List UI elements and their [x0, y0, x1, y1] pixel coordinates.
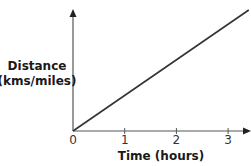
y-axis-title-line2: (kms/miles)	[0, 74, 77, 88]
y-axis-title-line1: Distance	[8, 59, 67, 73]
x-tick-label: 0	[69, 133, 77, 147]
x-axis-title: Time (hours)	[118, 149, 204, 163]
x-axis-arrow-icon	[243, 128, 251, 135]
chart: 0123 Distance (kms/miles) Time (hours)	[0, 0, 251, 166]
series	[73, 10, 249, 131]
series-line-distance	[73, 10, 249, 131]
y-axis-arrow-icon	[70, 9, 77, 17]
x-tick-label: 1	[121, 133, 129, 147]
x-tick-label: 2	[173, 133, 181, 147]
x-tick-label: 3	[224, 133, 232, 147]
